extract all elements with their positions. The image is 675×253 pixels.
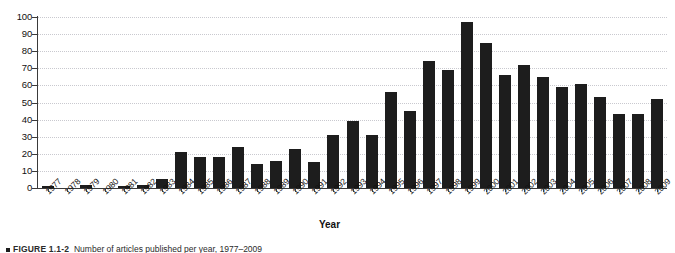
x-tick-1997 xyxy=(429,189,430,192)
bar-2006 xyxy=(594,97,606,188)
x-tick-1982 xyxy=(143,189,144,192)
x-tick-1977 xyxy=(48,189,49,192)
figure-number: FIGURE 1.1-2 xyxy=(13,244,69,253)
y-tick-10 xyxy=(32,171,37,172)
x-tick-1996 xyxy=(410,189,411,192)
y-tick-20 xyxy=(32,154,37,155)
y-tick-100 xyxy=(32,17,37,18)
y-tick-40 xyxy=(32,120,37,121)
x-tick-1981 xyxy=(124,189,125,192)
y-tick-30 xyxy=(32,137,37,138)
y-tick-60 xyxy=(32,85,37,86)
y-tick-label-50: 50 xyxy=(6,98,32,108)
y-tick-label-90: 90 xyxy=(6,29,32,39)
x-tick-1984 xyxy=(181,189,182,192)
x-tick-2001 xyxy=(505,189,506,192)
x-axis-title-text: Year xyxy=(319,219,340,230)
bar-2002 xyxy=(518,65,530,188)
x-tick-1988 xyxy=(257,189,258,192)
x-tick-1995 xyxy=(391,189,392,192)
bar-1998 xyxy=(442,70,454,188)
figure-caption: FIGURE 1.1-2 Number of articles publishe… xyxy=(6,244,666,253)
x-tick-1994 xyxy=(372,189,373,192)
y-tick-0 xyxy=(32,188,37,189)
figure-container: 0102030405060708090100 19771978197919801… xyxy=(0,0,675,253)
y-tick-50 xyxy=(32,103,37,104)
bar-1995 xyxy=(385,92,397,188)
x-tick-1992 xyxy=(333,189,334,192)
bar-1997 xyxy=(423,61,435,188)
y-tick-90 xyxy=(32,34,37,35)
x-tick-2009 xyxy=(657,189,658,192)
y-tick-label-100: 100 xyxy=(6,12,32,22)
y-tick-label-80: 80 xyxy=(6,46,32,56)
x-tick-2005 xyxy=(581,189,582,192)
y-tick-label-60: 60 xyxy=(6,80,32,90)
y-tick-label-0: 0 xyxy=(6,183,32,193)
x-tick-2003 xyxy=(543,189,544,192)
x-tick-1993 xyxy=(353,189,354,192)
bar-2007 xyxy=(613,114,625,188)
y-tick-70 xyxy=(32,68,37,69)
x-tick-1978 xyxy=(67,189,68,192)
bar-2001 xyxy=(499,75,511,188)
x-tick-1989 xyxy=(276,189,277,192)
bar-2003 xyxy=(537,77,549,188)
x-tick-2000 xyxy=(486,189,487,192)
x-tick-1985 xyxy=(200,189,201,192)
x-tick-2008 xyxy=(638,189,639,192)
x-tick-1983 xyxy=(162,189,163,192)
bar-series xyxy=(38,17,667,188)
x-axis-tick-labels: 1977197819791980198119821983198419851986… xyxy=(38,188,667,222)
x-tick-1980 xyxy=(105,189,106,192)
y-tick-80 xyxy=(32,51,37,52)
x-tick-1991 xyxy=(314,189,315,192)
y-tick-label-70: 70 xyxy=(6,63,32,73)
x-tick-1987 xyxy=(238,189,239,192)
bar-2009 xyxy=(651,99,663,188)
x-tick-2007 xyxy=(619,189,620,192)
x-tick-1979 xyxy=(86,189,87,192)
caption-bullet-icon xyxy=(6,248,10,252)
x-tick-1998 xyxy=(448,189,449,192)
x-axis-title: Year xyxy=(0,219,675,230)
y-axis-tick-labels: 0102030405060708090100 xyxy=(0,0,32,253)
x-tick-2004 xyxy=(562,189,563,192)
bar-1999 xyxy=(461,22,473,188)
bar-1993 xyxy=(347,121,359,188)
bar-2008 xyxy=(632,114,644,188)
y-tick-label-10: 10 xyxy=(6,166,32,176)
x-tick-1999 xyxy=(467,189,468,192)
bar-1996 xyxy=(404,111,416,188)
x-tick-1990 xyxy=(295,189,296,192)
y-tick-label-20: 20 xyxy=(6,149,32,159)
x-tick-2006 xyxy=(600,189,601,192)
bar-2000 xyxy=(480,43,492,188)
y-tick-label-30: 30 xyxy=(6,132,32,142)
figure-caption-text: Number of articles published per year, 1… xyxy=(74,244,262,253)
bar-2005 xyxy=(575,84,587,188)
x-tick-1986 xyxy=(219,189,220,192)
x-tick-2002 xyxy=(524,189,525,192)
y-tick-label-40: 40 xyxy=(6,115,32,125)
bar-2004 xyxy=(556,87,568,188)
